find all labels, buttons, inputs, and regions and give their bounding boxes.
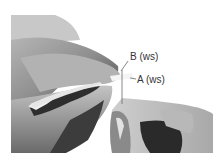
leader-line-b: [121, 61, 128, 71]
right-hand: [110, 98, 213, 153]
label-a-wrong-side: A (ws): [137, 75, 165, 85]
label-b-wrong-side: B (ws): [130, 52, 158, 62]
leader-line-a: [130, 78, 136, 79]
left-hand: [11, 15, 120, 153]
hands-photo: [0, 0, 224, 160]
